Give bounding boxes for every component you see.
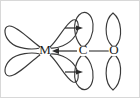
pi-backbond-lower-arrow-head [76, 70, 83, 75]
oxygen-p-lobe-lower-orbital [106, 56, 120, 90]
metal-lobe-lower-right-orbital [50, 54, 78, 82]
sigma-donation-arrow-head [52, 48, 59, 54]
diagram-canvas: M C O [0, 0, 140, 98]
atom-label-carbon: C [79, 42, 88, 57]
atom-label-oxygen: O [109, 42, 118, 57]
orbital-diagram-figure: M C O [0, 0, 140, 98]
metal-lobe-upper-left-orbital [5, 26, 40, 49]
pi-backbond-upper-arrow-head [76, 26, 83, 31]
metal-lobe-lower-left-orbital [5, 53, 40, 76]
atom-label-metal: M [39, 42, 51, 57]
oxygen-p-lobe-upper-orbital [106, 13, 120, 46]
metal-lobe-upper-right-orbital [50, 20, 78, 48]
